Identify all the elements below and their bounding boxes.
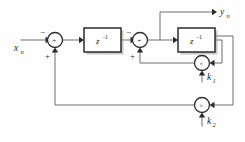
wire-adder2-to-delay2 bbox=[148, 37, 179, 43]
input-label-subscript: n bbox=[21, 48, 24, 55]
adder-2-plus-sign: + bbox=[130, 51, 135, 61]
coefficient-k2-label: k 2 bbox=[207, 116, 217, 128]
adder-node-2: + − + bbox=[126, 27, 148, 61]
adder-node-1: + − + bbox=[40, 27, 63, 61]
wire-k2-coefficient-input bbox=[199, 113, 205, 127]
input-signal-label: x n bbox=[13, 43, 24, 55]
adder-1-glyph: + bbox=[52, 37, 56, 45]
input-label-x: x bbox=[13, 43, 19, 53]
multiplier-node-k1: × bbox=[195, 56, 210, 71]
delay-block-1-exponent: -1 bbox=[103, 34, 108, 40]
wire-mult-k2-to-adder1 bbox=[52, 48, 195, 106]
output-label-subscript: n bbox=[227, 12, 230, 19]
coef2-label-subscript: 2 bbox=[213, 121, 217, 128]
wire-k1-coefficient-input bbox=[199, 71, 205, 83]
coef1-label-subscript: 1 bbox=[213, 77, 216, 84]
adder-1-minus-sign: − bbox=[40, 27, 45, 37]
multiplier-k1-glyph: × bbox=[199, 60, 203, 68]
wire-adder1-to-delay1 bbox=[63, 37, 85, 43]
multiplier-node-k2: × bbox=[195, 98, 210, 113]
block-diagram-figure: z -1 z -1 + − + + − + × × bbox=[0, 0, 245, 142]
coef1-label-k: k bbox=[207, 72, 212, 82]
multiplier-k2-glyph: × bbox=[199, 102, 203, 110]
coef2-label-k: k bbox=[207, 116, 212, 126]
wire-input-to-adder1 bbox=[21, 37, 51, 43]
delay-block-1-label: z bbox=[95, 36, 100, 46]
delay-block-1: z -1 bbox=[84, 28, 124, 55]
adder-2-glyph: + bbox=[137, 37, 141, 45]
output-label-y: y bbox=[219, 7, 225, 17]
delay-block-2-exponent: -1 bbox=[197, 34, 202, 40]
adder-2-minus-sign: − bbox=[126, 27, 131, 37]
delay-block-2-label: z bbox=[189, 36, 194, 46]
coefficient-k1-label: k 1 bbox=[207, 72, 216, 84]
delay-block-2: z -1 bbox=[178, 28, 218, 55]
output-signal-label: y n bbox=[219, 7, 230, 19]
signal-flow-diagram-canvas: z -1 z -1 + − + + − + × × bbox=[0, 0, 245, 142]
adder-1-plus-sign: + bbox=[45, 51, 50, 61]
